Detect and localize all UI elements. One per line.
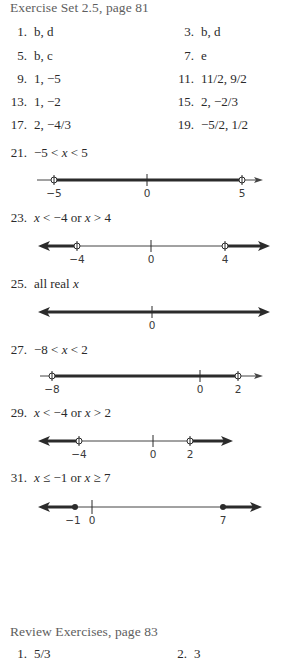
item-answer: x < −4 or x > 4 [34,210,111,226]
answer-item: 1. 5/3 [3,646,51,662]
tick-label: 2 [187,448,194,460]
item-number: 1. [3,646,27,662]
item-answer: −8 < x < 2 [34,342,88,358]
item-answer: 5/3 [34,646,51,662]
answer-item: 11. 11/2, 9/2 [170,71,247,87]
number-line-31: −1 0 7 [0,495,302,525]
item-number: 3. [170,24,194,40]
graph-item-label: 23. x < −4 or x > 4 [3,210,111,226]
item-number: 11. [170,71,194,87]
tick-label: 2 [235,383,242,395]
answer-item: 3. b, d [170,24,221,40]
item-answer: 1, −2 [34,94,61,110]
answer-item: 7. e [170,48,207,64]
item-number: 29. [3,405,27,421]
item-number: 19. [170,117,194,133]
number-line-27: −8 0 2 [0,364,302,394]
number-line-23: −4 0 4 [0,234,302,264]
item-answer: 1, −5 [34,71,61,87]
item-answer: b, c [34,48,53,64]
item-number: 2. [163,646,187,662]
answer-item: 15. 2, −2/3 [170,94,238,110]
item-number: 23. [3,210,27,226]
closed-endpoint-icon [72,504,78,510]
item-number: 5. [3,48,27,64]
item-number: 31. [3,470,27,486]
item-number: 15. [170,94,194,110]
tick-label: 0 [149,319,156,331]
tick-label: 4 [222,253,229,265]
item-number: 17. [3,117,27,133]
item-answer: 3 [194,646,201,662]
graph-item-label: 27. −8 < x < 2 [3,342,88,358]
number-line-29: −4 0 2 [0,429,302,459]
tick-label: 5 [239,187,246,199]
item-number: 1. [3,24,27,40]
item-answer: x ≤ −1 or x ≥ 7 [34,470,111,486]
item-number: 25. [3,276,27,292]
section-title-exercise-set: Exercise Set 2.5, page 81 [10,0,149,16]
answer-item: 1. b, d [3,24,54,40]
closed-endpoint-icon [220,504,226,510]
item-answer: −5 < x < 5 [34,145,88,161]
graph-item-label: 31. x ≤ −1 or x ≥ 7 [3,470,111,486]
tick-label: 0 [148,253,155,265]
number-line-21: −5 0 5 [0,168,302,198]
item-answer: b, d [34,24,54,40]
item-answer: e [201,48,207,64]
tick-label: −4 [69,253,85,265]
answer-item: 13. 1, −2 [3,94,61,110]
tick-label: 7 [220,514,227,526]
graph-item-label: 29. x < −4 or x > 2 [3,405,111,421]
item-answer: all real x [34,276,79,292]
item-number: 7. [170,48,194,64]
tick-label: 0 [144,187,151,199]
answer-item: 5. b, c [3,48,53,64]
item-answer: x < −4 or x > 2 [34,405,111,421]
item-number: 13. [3,94,27,110]
answer-item: 2. 3 [163,646,201,662]
tick-label: −1 [65,514,80,526]
graph-item-label: 25. all real x [3,276,79,292]
tick-label: 0 [150,448,157,460]
tick-label: 0 [89,514,96,526]
answer-item: 19. −5/2, 1/2 [170,117,248,133]
item-answer: 2, −2/3 [201,94,238,110]
item-answer: 11/2, 9/2 [201,71,247,87]
number-line-25: 0 [0,300,302,330]
tick-label: −5 [46,187,61,199]
item-answer: 2, −4/3 [34,117,71,133]
tick-label: −4 [71,448,87,460]
item-answer: −5/2, 1/2 [201,117,248,133]
item-number: 27. [3,342,27,358]
tick-label: −8 [44,383,59,395]
item-answer: b, d [201,24,221,40]
item-number: 21. [3,145,27,161]
answer-item: 17. 2, −4/3 [3,117,71,133]
tick-label: 0 [197,383,204,395]
section-title-review-exercises: Review Exercises, page 83 [10,624,158,640]
item-number: 9. [3,71,27,87]
answer-item: 9. 1, −5 [3,71,61,87]
graph-item-label: 21. −5 < x < 5 [3,145,88,161]
